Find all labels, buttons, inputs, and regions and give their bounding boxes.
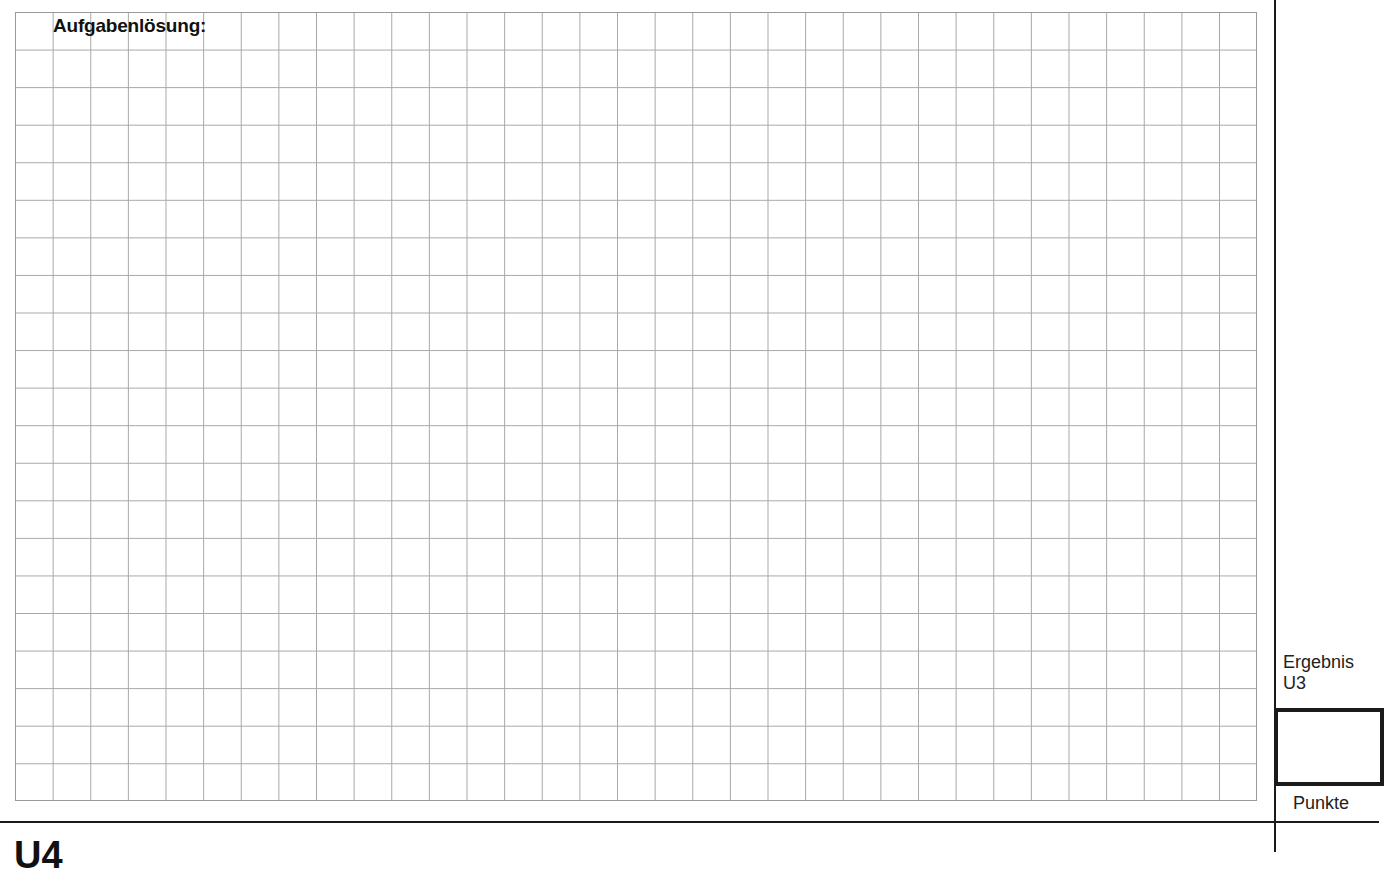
answer-grid[interactable]	[15, 12, 1257, 801]
score-box[interactable]	[1274, 708, 1384, 786]
result-label: Ergebnis U3	[1283, 652, 1354, 694]
result-label-title: Ergebnis	[1283, 652, 1354, 673]
points-label: Punkte	[1293, 793, 1349, 814]
next-task-heading: U4	[14, 836, 63, 872]
section-divider	[0, 821, 1379, 823]
solution-heading: Aufgabenlösung:	[53, 15, 206, 37]
result-label-task: U3	[1283, 673, 1354, 694]
